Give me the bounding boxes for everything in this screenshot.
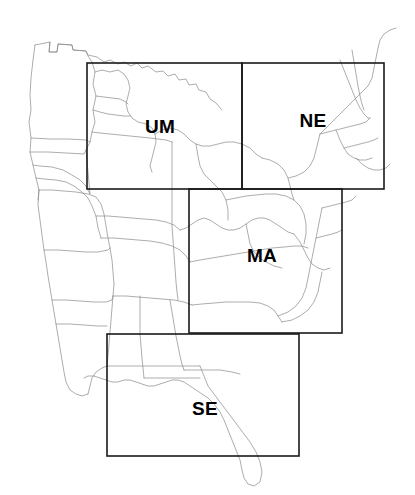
region-label-um: UM [145, 116, 175, 137]
region-label-ne: NE [300, 110, 327, 131]
map-canvas: UMNEMASE [0, 0, 415, 495]
map-background [0, 0, 415, 495]
region-label-ma: MA [247, 245, 277, 266]
region-label-se: SE [192, 398, 218, 419]
region-map-figure: UMNEMASE [0, 0, 415, 495]
